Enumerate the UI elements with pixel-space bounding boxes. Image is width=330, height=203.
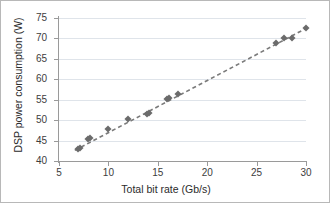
y-tick-mark: [54, 18, 59, 19]
x-tick-label: 5: [44, 168, 74, 178]
y-tick-mark: [54, 141, 59, 142]
x-tick-label: 15: [143, 168, 173, 178]
plot-area: [59, 18, 306, 161]
x-tick-mark: [158, 161, 159, 166]
x-tick-mark: [108, 161, 109, 166]
x-tick-mark: [59, 161, 60, 166]
x-tick-label: 10: [93, 168, 123, 178]
x-axis-title: Total bit rate (Gb/s): [1, 183, 330, 195]
y-tick-mark: [54, 100, 59, 101]
x-tick-mark: [207, 161, 208, 166]
y-tick-mark: [54, 120, 59, 121]
chart-figure: 4045505560657075 51015202530 Total bit r…: [0, 0, 330, 203]
x-axis-line: [58, 161, 307, 162]
x-tick-label: 30: [291, 168, 321, 178]
x-tick-label: 25: [242, 168, 272, 178]
x-tick-mark: [306, 161, 307, 166]
y-axis-title: DSP power consumption (W): [12, 5, 24, 165]
y-tick-mark: [54, 79, 59, 80]
trendline: [59, 18, 306, 161]
x-tick-label: 20: [192, 168, 222, 178]
x-tick-mark: [257, 161, 258, 166]
y-tick-mark: [54, 38, 59, 39]
y-tick-mark: [54, 59, 59, 60]
